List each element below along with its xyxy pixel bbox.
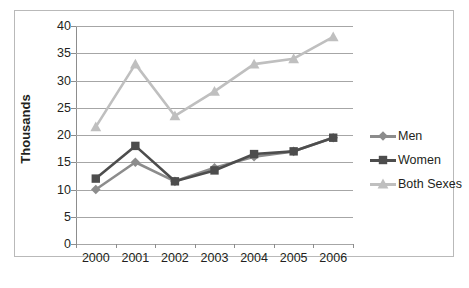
- x-tick-mark: [234, 244, 235, 248]
- data-point-marker: [210, 166, 218, 174]
- y-axis-title: Thousands: [18, 94, 33, 163]
- y-tick-label: 15: [57, 156, 71, 169]
- x-axis-line: [76, 244, 353, 245]
- x-tick-label: 2001: [121, 252, 149, 265]
- data-point-marker: [92, 174, 100, 182]
- x-tick-mark: [353, 244, 354, 248]
- y-tick-label: 40: [57, 20, 71, 33]
- data-point-marker: [289, 147, 297, 155]
- x-tick-label: 2002: [161, 252, 189, 265]
- legend-swatch: [370, 129, 396, 143]
- data-point-marker: [328, 32, 339, 42]
- series-both-sexes: [90, 32, 338, 132]
- legend-marker-diamond-icon: [375, 128, 391, 144]
- x-tick-label: 2005: [280, 252, 308, 265]
- y-tick-label: 20: [57, 129, 71, 142]
- chart-legend: MenWomenBoth Sexes: [370, 124, 460, 196]
- x-tick-mark: [274, 244, 275, 248]
- legend-label: Women: [398, 153, 441, 167]
- data-point-marker: [329, 134, 337, 142]
- series-men: [91, 133, 338, 194]
- x-tick-label: 2003: [201, 252, 229, 265]
- data-point-marker: [130, 59, 141, 69]
- y-tick-label: 25: [57, 102, 71, 115]
- data-point-marker: [171, 177, 179, 185]
- x-tick-mark: [76, 244, 77, 248]
- plot-area: 0510152025303540 20002001200220032004200…: [76, 26, 353, 244]
- legend-label: Both Sexes: [398, 177, 462, 191]
- legend-swatch: [370, 153, 396, 167]
- series-women: [92, 134, 338, 186]
- x-tick-mark: [116, 244, 117, 248]
- legend-marker-triangle-icon: [375, 176, 391, 192]
- legend-item-men[interactable]: Men: [370, 124, 460, 148]
- data-point-marker: [131, 142, 139, 150]
- x-tick-mark: [155, 244, 156, 248]
- y-tick-label: 5: [64, 211, 71, 224]
- x-tick-label: 2000: [82, 252, 110, 265]
- x-tick-mark: [195, 244, 196, 248]
- series-layer: [76, 26, 353, 244]
- y-tick-label: 35: [57, 47, 71, 60]
- x-tick-mark: [313, 244, 314, 248]
- data-point-marker: [250, 150, 258, 158]
- x-tick-label: 2004: [240, 252, 268, 265]
- chart-frame: Thousands 0510152025303540 2000200120022…: [14, 10, 454, 257]
- legend-item-both-sexes[interactable]: Both Sexes: [370, 172, 460, 196]
- x-tick-label: 2006: [319, 252, 347, 265]
- legend-item-women[interactable]: Women: [370, 148, 460, 172]
- series-line: [96, 37, 333, 127]
- legend-swatch: [370, 177, 396, 191]
- y-tick-label: 10: [57, 183, 71, 196]
- legend-label: Men: [398, 129, 422, 143]
- y-tick-label: 30: [57, 74, 71, 87]
- legend-marker-square-icon: [375, 152, 391, 168]
- y-tick-label: 0: [64, 238, 71, 251]
